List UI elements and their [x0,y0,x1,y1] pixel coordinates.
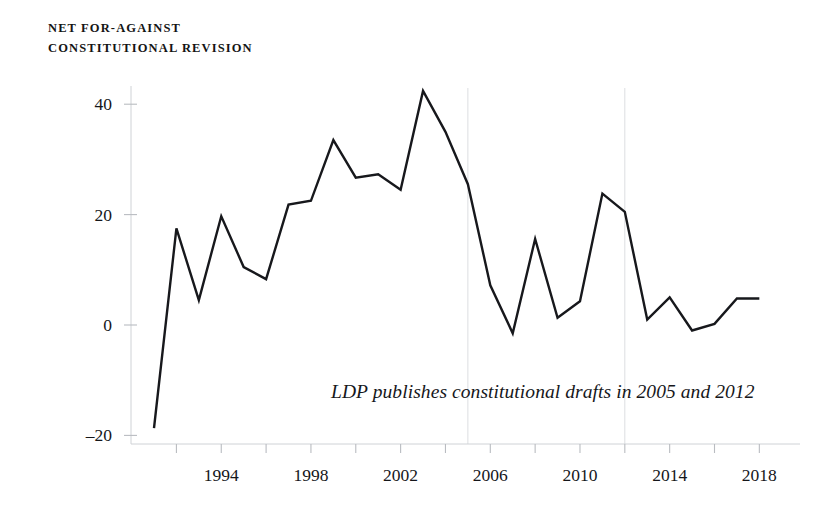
x-tick-label-2010: 2010 [562,465,597,485]
line-chart-svg: –2002040 1994199820022006201020142018 [0,0,840,516]
x-tick-label-2014: 2014 [652,465,687,485]
x-tick-label-2006: 2006 [473,465,508,485]
x-tick-label-2002: 2002 [383,465,418,485]
y-ticks-group: –2002040 [85,94,137,445]
plot-area: –2002040 1994199820022006201020142018 [0,0,840,516]
x-ticks-group: 1994199820022006201020142018 [176,444,777,485]
y-tick-label-0: 0 [103,315,112,335]
chart-annotation: LDP publishes constitutional drafts in 2… [331,381,755,403]
series-line-net-for-against [154,91,759,428]
x-tick-label-1994: 1994 [204,465,239,485]
y-tick-label-40: 40 [95,94,113,114]
y-tick-label--20: –20 [85,425,113,445]
y-tick-label-20: 20 [95,205,113,225]
x-tick-label-1998: 1998 [293,465,328,485]
x-tick-label-2018: 2018 [742,465,777,485]
chart-page: NET FOR-AGAINST CONSTITUTIONAL REVISION … [0,0,840,516]
